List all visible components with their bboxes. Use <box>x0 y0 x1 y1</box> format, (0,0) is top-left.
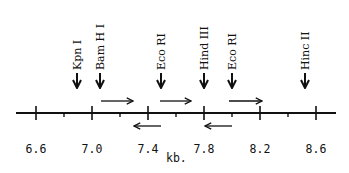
site-label: Bam H I <box>94 24 107 70</box>
site-label: Eco RI <box>226 33 239 70</box>
tick-label: 7.4 <box>138 142 159 156</box>
site-eco-ri: Eco RI <box>226 33 239 88</box>
site-label: Eco RI <box>155 33 168 70</box>
tick-label: 8.6 <box>306 142 327 156</box>
site-label: Kpn I <box>71 40 84 70</box>
tick-label: 7.0 <box>82 142 103 156</box>
map-svg: 6.67.07.47.88.28.6 kb. Kpn IBam H IEco R… <box>0 0 349 173</box>
tick-label: 8.2 <box>250 142 271 156</box>
restriction-sites: Kpn IBam H IEco RIHind IIIEco RIHinc II <box>71 24 312 88</box>
site-bam-h-i: Bam H I <box>94 24 107 88</box>
tick-label: 6.6 <box>26 142 47 156</box>
restriction-map-diagram: 6.67.07.47.88.28.6 kb. Kpn IBam H IEco R… <box>0 0 349 173</box>
site-label: Hind III <box>198 26 211 70</box>
site-kpn-i: Kpn I <box>71 40 84 88</box>
tick-label: 7.8 <box>194 142 215 156</box>
site-hind-iii: Hind III <box>198 26 211 88</box>
site-eco-ri: Eco RI <box>155 33 168 88</box>
axis-unit-label: kb. <box>166 151 187 165</box>
site-hinc-ii: Hinc II <box>299 31 312 88</box>
site-label: Hinc II <box>299 31 312 70</box>
